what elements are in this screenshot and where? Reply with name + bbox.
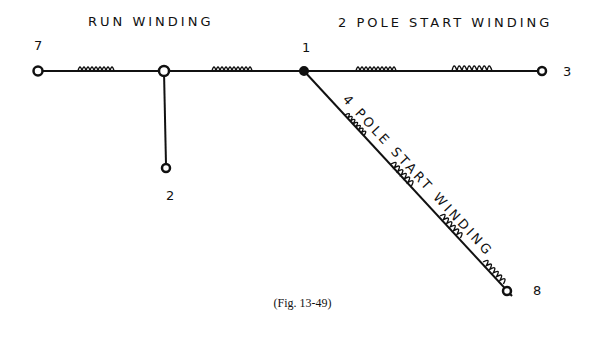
terminal-1-label: 1 [302, 40, 310, 55]
two-pole-start-label: 2 POLE START WINDING [338, 15, 552, 30]
figure-caption: (Fig. 13-49) [0, 296, 605, 311]
terminal-2-label: 2 [166, 188, 174, 203]
terminal-3-node [538, 67, 546, 75]
diagonal-conductor [304, 71, 512, 296]
terminal-7-label: 7 [34, 38, 42, 53]
vertical-conductor [164, 71, 166, 165]
terminal-2-node [162, 164, 170, 172]
terminal-7-node [34, 67, 43, 76]
run-winding-label: RUN WINDING [88, 14, 213, 29]
four-pole-start-label: 4 POLE START WINDING [340, 92, 497, 259]
terminal-8-node [503, 287, 511, 295]
four-pole-coil-4 [483, 259, 507, 284]
junction-node [159, 66, 169, 76]
terminal-3-label: 3 [563, 64, 571, 79]
terminal-1-node [300, 67, 308, 75]
winding-diagram: RUN WINDING 2 POLE START WINDING 4 POLE … [0, 0, 605, 338]
